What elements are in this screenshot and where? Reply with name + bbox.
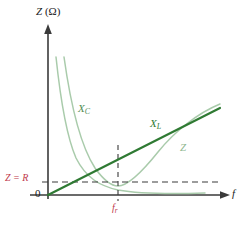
origin-label: 0 <box>35 188 41 199</box>
curve-label-xl-symbol: X <box>150 117 157 129</box>
impedance-vs-frequency-figure: Z (Ω) f 0 Z = R fr XC XL Z <box>0 0 250 227</box>
curve-label-xl: XL <box>150 118 161 131</box>
y-axis-unit: (Ω) <box>45 5 61 17</box>
x-axis-label: f <box>232 188 235 199</box>
impedance-axis <box>44 24 52 199</box>
curve-label-xc-symbol: X <box>78 102 85 114</box>
curve-z <box>64 57 220 186</box>
curve-xc <box>56 57 205 194</box>
resonant-frequency-subscript: r <box>115 207 118 215</box>
curve-label-xl-subscript: L <box>157 122 161 131</box>
y-axis-label: Z (Ω) <box>36 6 60 17</box>
curve-label-xc-subscript: C <box>85 107 90 116</box>
curve-label-z: Z <box>180 142 186 153</box>
curve-label-xc: XC <box>78 103 90 116</box>
z-equals-r-label: Z = R <box>5 173 28 183</box>
resonant-frequency-label: fr <box>112 203 118 215</box>
